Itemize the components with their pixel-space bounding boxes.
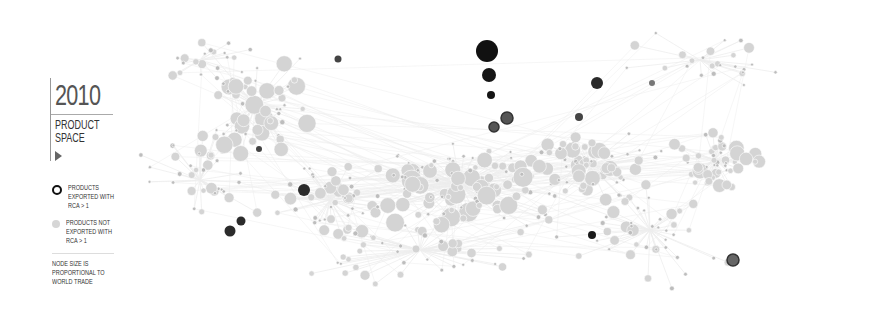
non-rca-node	[741, 71, 744, 74]
non-rca-node	[312, 175, 315, 178]
non-rca-node	[630, 221, 633, 224]
non-rca-node	[653, 155, 658, 160]
non-rca-node	[339, 262, 342, 265]
non-rca-node	[203, 52, 206, 55]
non-rca-node	[525, 224, 528, 227]
non-rca-node	[254, 79, 257, 82]
non-rca-node	[346, 214, 350, 218]
non-rca-node	[716, 169, 722, 175]
non-rca-node	[539, 150, 544, 155]
non-rca-node	[340, 254, 346, 260]
non-rca-node	[253, 208, 262, 217]
rca-node[interactable]	[335, 56, 342, 63]
non-rca-node	[327, 167, 337, 177]
non-rca-node	[187, 187, 196, 196]
non-rca-node	[562, 188, 568, 194]
non-rca-node	[215, 129, 218, 132]
non-rca-node	[232, 55, 237, 60]
non-rca-node	[537, 205, 547, 215]
non-rca-node	[208, 48, 213, 53]
non-rca-node	[374, 165, 382, 173]
non-rca-node	[452, 264, 456, 268]
non-rca-node	[193, 59, 199, 65]
non-rca-node	[733, 163, 744, 174]
non-rca-node	[558, 147, 562, 151]
non-rca-node	[171, 152, 180, 161]
non-rca-node	[283, 104, 286, 107]
non-rca-node	[660, 150, 663, 153]
non-rca-node	[685, 64, 689, 68]
non-rca-node	[573, 170, 586, 183]
non-rca-node	[315, 188, 327, 200]
rca-node[interactable]	[591, 77, 603, 89]
non-rca-node	[670, 286, 675, 291]
rca-node[interactable]	[501, 112, 513, 124]
rca-node[interactable]	[727, 254, 739, 266]
non-rca-node	[324, 185, 327, 188]
rca-node[interactable]	[482, 68, 496, 82]
non-rca-node	[201, 168, 205, 172]
non-rca-node	[215, 76, 220, 81]
product-space-network[interactable]	[0, 0, 878, 330]
non-rca-node	[214, 91, 223, 100]
rca-node[interactable]	[575, 113, 583, 121]
non-rca-node	[536, 215, 541, 220]
non-rca-node	[227, 41, 231, 45]
non-rca-node	[470, 259, 474, 263]
non-rca-node	[615, 181, 618, 184]
non-rca-node	[546, 149, 552, 155]
non-rca-node	[705, 165, 708, 168]
non-rca-node	[338, 184, 350, 196]
non-rca-node	[267, 118, 273, 124]
non-rca-node	[308, 194, 315, 201]
non-rca-node	[392, 173, 396, 177]
rca-node[interactable]	[298, 184, 310, 196]
rca-node[interactable]	[256, 146, 262, 152]
rca-node[interactable]	[489, 122, 499, 132]
non-rca-node	[462, 263, 465, 266]
non-rca-node	[711, 71, 716, 76]
non-rca-node	[148, 180, 151, 183]
non-rca-node	[148, 166, 151, 169]
non-rca-node	[199, 73, 202, 76]
non-rca-node	[176, 56, 180, 60]
non-rca-node	[451, 171, 466, 186]
non-rca-node	[177, 172, 182, 177]
rca-node[interactable]	[649, 80, 655, 86]
non-rca-node	[494, 263, 497, 266]
non-rca-node	[651, 225, 655, 229]
rca-node[interactable]	[225, 226, 236, 237]
non-rca-node	[581, 144, 588, 151]
non-rca-node	[588, 139, 596, 147]
non-rca-node	[460, 215, 467, 222]
rca-node[interactable]	[237, 217, 246, 226]
non-rca-node	[222, 132, 225, 135]
non-rca-node	[197, 130, 208, 141]
non-rca-node	[647, 196, 650, 199]
non-rca-node	[553, 194, 557, 198]
non-rca-node	[598, 147, 611, 160]
non-rca-node	[477, 152, 493, 168]
non-rca-node	[572, 143, 579, 150]
non-rca-node	[353, 231, 358, 236]
non-rca-node	[355, 225, 368, 238]
non-rca-node	[520, 172, 524, 176]
non-rca-node	[610, 155, 614, 159]
non-rca-node	[360, 242, 366, 248]
rca-node[interactable]	[588, 231, 596, 239]
non-rca-node	[496, 246, 502, 252]
non-rca-node	[689, 58, 695, 64]
non-rca-node	[739, 152, 752, 165]
non-rca-node	[370, 207, 381, 218]
non-rca-node	[442, 212, 446, 216]
non-rca-node	[603, 228, 611, 236]
non-rca-node	[331, 176, 341, 186]
rca-node[interactable]	[476, 40, 498, 62]
non-rca-node	[433, 218, 440, 225]
non-rca-node	[641, 180, 651, 190]
non-rca-node	[449, 207, 455, 213]
non-rca-node	[636, 206, 640, 210]
non-rca-node	[719, 151, 722, 154]
rca-node[interactable]	[487, 91, 495, 99]
non-rca-node	[517, 228, 524, 235]
